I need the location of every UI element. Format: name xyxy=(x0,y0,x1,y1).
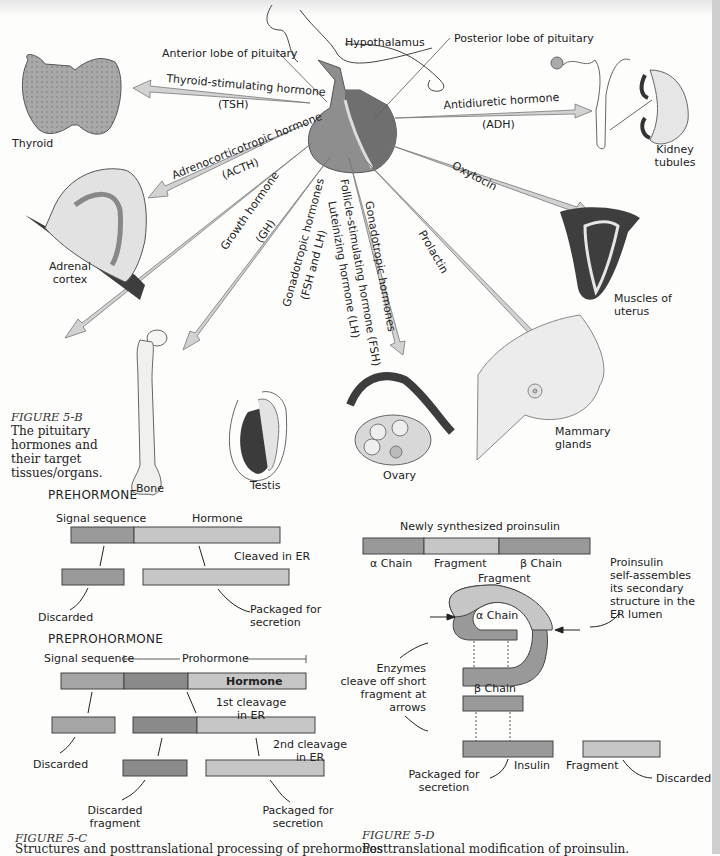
label-ovary: Ovary xyxy=(383,469,416,482)
label-packaged-d: Packaged for secretion xyxy=(404,768,484,794)
label-signal-sequence: Signal sequence xyxy=(56,512,146,525)
label-tsh-abbr: (TSH) xyxy=(218,98,249,111)
caption-line: hormones and xyxy=(11,438,103,452)
label-packaged-line1: Packaged for xyxy=(250,603,321,616)
figure-5d-caption: Posttranslational modification of proins… xyxy=(362,842,629,856)
caption-line: tissues/organs. xyxy=(11,466,103,480)
label-uterus: Muscles of uterus xyxy=(614,292,672,318)
label-testis: Testis xyxy=(250,479,280,492)
prehormone-heading: PREHORMONE xyxy=(48,488,137,502)
label-first-cleavage-line2: in ER xyxy=(216,709,286,722)
label-kidney-line1: Kidney xyxy=(650,143,700,156)
label-discarded: Discarded xyxy=(38,611,93,624)
note-line: structure in the xyxy=(610,595,695,608)
note-line: cleave off short xyxy=(340,675,426,688)
label-packaged-line2: secretion xyxy=(250,616,321,629)
label-hypothalamus: Hypothalamus xyxy=(345,36,425,49)
label-mammary-line2: glands xyxy=(555,438,610,451)
uterus-organ xyxy=(560,207,640,300)
label-discarded-fragment-line2: fragment xyxy=(85,817,145,830)
label-discarded-d: Discarded xyxy=(656,772,711,785)
label-kidney: Kidney tubules xyxy=(650,143,700,169)
label-packaged-d-line2: secretion xyxy=(404,781,484,794)
proinsulin-bar xyxy=(363,538,590,554)
label-discarded-fragment-line1: Discarded xyxy=(85,804,145,817)
figure-5b-title: FIGURE 5-B xyxy=(11,410,83,424)
label-packaged-2-line1: Packaged for xyxy=(258,804,338,817)
kidney-organ xyxy=(551,57,688,149)
label-packaged: Packaged for secretion xyxy=(250,603,321,629)
label-bone: Bone xyxy=(136,482,164,495)
note-line: its secondary xyxy=(610,582,695,595)
label-packaged-2: Packaged for secretion xyxy=(258,804,338,830)
label-adrenal-line2: cortex xyxy=(40,273,100,286)
note-enzymes: Enzymes cleave off short fragment at arr… xyxy=(340,662,426,714)
caption-line: The pituitary xyxy=(11,424,103,438)
label-fragment-out: Fragment xyxy=(566,759,619,772)
label-hormone-2: Hormone xyxy=(226,675,283,688)
label-second-cleavage: 2nd cleavage in ER xyxy=(270,738,350,764)
label-kidney-line2: tubules xyxy=(650,156,700,169)
label-first-cleavage-line1: 1st cleavage xyxy=(216,696,286,709)
label-hormone: Hormone xyxy=(192,512,243,525)
label-fragment-seg: Fragment xyxy=(434,557,487,570)
label-beta-chain-cut: β Chain xyxy=(474,682,516,695)
label-thyroid: Thyroid xyxy=(12,137,53,150)
label-mammary-line1: Mammary xyxy=(555,425,610,438)
label-second-cleavage-line2: in ER xyxy=(270,751,350,764)
note-line: arrows xyxy=(340,701,426,714)
testis-organ xyxy=(229,392,286,481)
preprohormone-heading: PREPROHORMONE xyxy=(48,632,163,646)
label-adrenal-line1: Adrenal xyxy=(40,260,100,273)
label-alpha-chain-fold: α Chain xyxy=(476,609,518,622)
label-mammary: Mammary glands xyxy=(555,425,610,451)
label-packaged-d-line1: Packaged for xyxy=(404,768,484,781)
label-discarded-fragment: Discarded fragment xyxy=(85,804,145,830)
label-proinsulin-title: Newly synthesized proinsulin xyxy=(400,520,560,533)
caption-line: their target xyxy=(11,452,103,466)
label-anterior-lobe: Anterior lobe of pituitary xyxy=(162,47,298,60)
thyroid-organ xyxy=(22,54,121,134)
label-cleaved-in-er: Cleaved in ER xyxy=(234,550,310,563)
figure-5d-title: FIGURE 5-D xyxy=(362,828,435,842)
label-signal-sequence-2: Signal sequence xyxy=(44,652,134,665)
label-fragment-top: Fragment xyxy=(478,572,531,585)
note-line: ER lumen xyxy=(610,608,695,621)
figure-5b-caption: The pituitary hormones and their target … xyxy=(11,424,103,480)
label-uterus-line1: Muscles of xyxy=(614,292,672,305)
label-posterior-lobe: Posterior lobe of pituitary xyxy=(454,32,594,45)
proinsulin-folded xyxy=(449,585,552,686)
label-prohormone: Prohormone xyxy=(182,652,249,665)
label-first-cleavage: 1st cleavage in ER xyxy=(216,696,286,722)
note-line: self-assembles xyxy=(610,569,695,582)
note-line: fragment at xyxy=(340,688,426,701)
label-beta-chain-seg: β Chain xyxy=(520,557,562,570)
label-second-cleavage-line1: 2nd cleavage xyxy=(270,738,350,751)
label-adh-abbr: (ADH) xyxy=(482,118,515,131)
label-adrenal: Adrenal cortex xyxy=(40,260,100,286)
note-line: Proinsulin xyxy=(610,556,695,569)
label-alpha-chain-seg: α Chain xyxy=(370,557,412,570)
label-uterus-line2: uterus xyxy=(614,305,672,318)
label-discarded-2: Discarded xyxy=(33,758,88,771)
label-packaged-2-line2: secretion xyxy=(258,817,338,830)
insulin-bars xyxy=(463,696,660,757)
label-insulin: Insulin xyxy=(514,759,550,772)
figure-5c-caption: Structures and posttranslational process… xyxy=(15,842,383,856)
note-line: Enzymes xyxy=(340,662,426,675)
ovary-organ xyxy=(350,376,452,465)
note-self-assembly: Proinsulin self-assembles its secondary … xyxy=(610,556,695,621)
bone-organ xyxy=(132,330,167,495)
